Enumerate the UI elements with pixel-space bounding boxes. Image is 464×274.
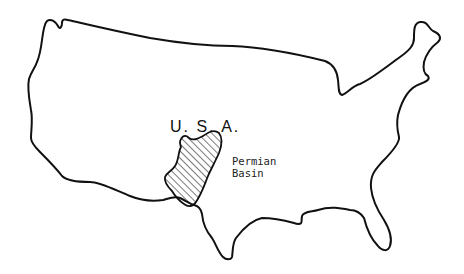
country-label: U. S. A. [170, 118, 240, 136]
permian-basin-region [165, 131, 222, 206]
usa-border [28, 19, 440, 259]
usa-outline-map [0, 0, 464, 274]
region-label-line2: Basin [232, 167, 264, 179]
region-label-line1: Permian [232, 155, 276, 167]
permian-basin-label: Permian Basin [232, 155, 276, 179]
